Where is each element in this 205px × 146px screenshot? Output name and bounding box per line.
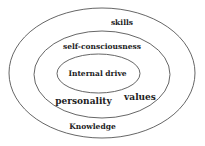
concentric-ellipse-diagram: skills self-consciousness Internal drive… — [0, 0, 205, 146]
label-knowledge: Knowledge — [69, 123, 115, 131]
label-personality: personality — [55, 97, 111, 106]
label-internal-drive: Internal drive — [68, 70, 126, 78]
label-skills: skills — [111, 19, 133, 27]
label-values: values — [124, 93, 156, 102]
label-self-consciousness: self-consciousness — [63, 43, 141, 51]
